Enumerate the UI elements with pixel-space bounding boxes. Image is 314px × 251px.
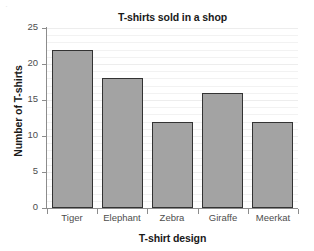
y-tick-label: 5 xyxy=(14,165,38,176)
bar-giraffe xyxy=(202,93,243,208)
y-tick-label: 0 xyxy=(14,201,38,212)
bar-tiger xyxy=(52,50,93,208)
y-tick-mark xyxy=(42,64,47,65)
corner-artifact-mark: · xyxy=(5,2,11,10)
y-tick-mark xyxy=(42,172,47,173)
y-tick-mark xyxy=(42,136,47,137)
chart-title: T-shirts sold in a shop xyxy=(47,11,298,23)
bar-chart-figure: · T-shirts sold in a shop Number of T-sh… xyxy=(0,0,314,251)
y-tick-mark xyxy=(42,28,47,29)
bar-zebra xyxy=(152,122,193,208)
gridline-minor xyxy=(47,35,298,36)
y-tick-label: 25 xyxy=(14,21,38,32)
x-tick-label-tiger: Tiger xyxy=(47,212,97,223)
plot-area xyxy=(47,28,298,208)
y-axis-line xyxy=(46,27,47,209)
x-tick-label-zebra: Zebra xyxy=(147,212,197,223)
bar-meerkat xyxy=(252,122,293,208)
x-axis-title: T-shirt design xyxy=(47,232,298,244)
x-tick-label-giraffe: Giraffe xyxy=(198,212,248,223)
y-tick-label: 15 xyxy=(14,93,38,104)
gridline-major xyxy=(47,28,298,29)
bar-elephant xyxy=(102,78,143,208)
x-axis-line xyxy=(46,208,298,209)
x-tick-mark xyxy=(298,209,299,214)
y-tick-mark xyxy=(42,100,47,101)
y-tick-label: 10 xyxy=(14,129,38,140)
x-tick-label-elephant: Elephant xyxy=(97,212,147,223)
y-tick-label: 20 xyxy=(14,57,38,68)
gridline-minor xyxy=(47,42,298,43)
x-tick-label-meerkat: Meerkat xyxy=(248,212,298,223)
